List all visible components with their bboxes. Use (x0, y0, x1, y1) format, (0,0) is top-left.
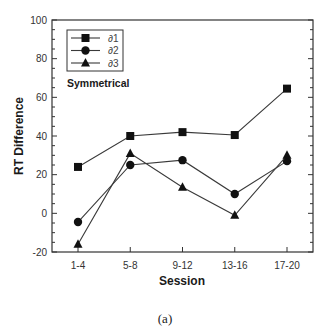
legend-label: ∂2 (108, 45, 119, 56)
x-tick-label: 17-20 (274, 260, 300, 271)
series-line (78, 153, 287, 244)
legend-label: ∂1 (108, 33, 119, 44)
square-marker (74, 163, 82, 171)
series-layer (74, 85, 292, 248)
legend-label: ∂3 (108, 58, 119, 69)
x-tick-label: 13-16 (222, 260, 248, 271)
y-tick-label: -20 (33, 247, 48, 258)
chart-annotation: Symmetrical (67, 77, 130, 89)
legend-circle-icon (81, 46, 89, 54)
y-tick-label: 60 (36, 92, 48, 103)
triangle-marker (178, 182, 187, 191)
y-tick-label: 100 (30, 15, 47, 26)
circle-marker (231, 190, 239, 198)
circle-marker (178, 156, 186, 164)
triangle-marker (74, 239, 83, 248)
square-marker (231, 131, 239, 139)
figure-caption: (a) (158, 311, 172, 326)
y-tick-label: 0 (41, 208, 47, 219)
series-2 (74, 156, 291, 226)
y-tick-label: 20 (36, 169, 48, 180)
series-line (78, 89, 287, 167)
x-tick-label: 9-12 (172, 260, 192, 271)
line-chart: -20020406080100 1-45-89-1213-1617-20 ∂1∂… (0, 0, 330, 335)
x-axis-title: Session (159, 274, 205, 288)
circle-marker (74, 218, 82, 226)
legend-square-icon (82, 34, 90, 42)
y-tick-label: 40 (36, 131, 48, 142)
y-axis-title: RT Difference (12, 97, 26, 175)
x-tick-label: 1-4 (71, 260, 86, 271)
triangle-marker (126, 148, 135, 157)
triangle-marker (283, 150, 292, 159)
x-axis: 1-45-89-1213-1617-20 (71, 247, 300, 271)
square-marker (126, 132, 134, 140)
x-tick-label: 5-8 (123, 260, 138, 271)
square-marker (179, 128, 187, 136)
circle-marker (126, 161, 134, 169)
y-tick-label: 80 (36, 53, 48, 64)
square-marker (283, 85, 291, 93)
legend: ∂1∂2∂3 (67, 30, 123, 71)
